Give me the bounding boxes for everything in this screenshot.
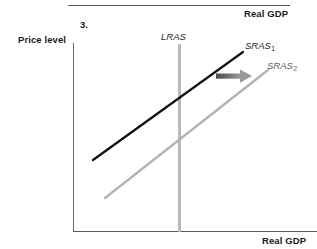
sras2-curve bbox=[105, 70, 268, 198]
top-chart-x-axis bbox=[68, 5, 290, 6]
question-number: 3. bbox=[80, 19, 88, 30]
x-axis bbox=[73, 231, 317, 232]
sras1-curve bbox=[93, 52, 243, 160]
sras2-curve-label: SRAS2 bbox=[267, 60, 297, 72]
worksheet-figure: Real GDP 3. Price level LRAS SRAS1 SRAS bbox=[0, 0, 317, 249]
y-axis bbox=[73, 43, 74, 232]
sras1-curve-label: SRAS1 bbox=[245, 40, 275, 52]
rightward-shift-arrow bbox=[216, 70, 252, 83]
lras-curve-label-text: LRAS bbox=[161, 31, 186, 42]
lras-curve bbox=[178, 44, 181, 232]
top-chart-x-axis-label: Real GDP bbox=[244, 8, 288, 19]
y-axis-label: Price level bbox=[18, 34, 66, 45]
sras2-curve-label-text: SRAS bbox=[267, 60, 293, 71]
x-axis-label: Real GDP bbox=[262, 235, 306, 246]
sras1-curve-label-text: SRAS bbox=[245, 40, 271, 51]
sras1-curve-label-subscript: 1 bbox=[271, 45, 275, 52]
lras-curve-label: LRAS bbox=[161, 31, 186, 42]
sras2-curve-label-subscript: 2 bbox=[293, 65, 297, 72]
